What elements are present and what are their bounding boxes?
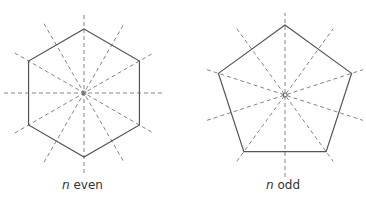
label-n-odd: n odd xyxy=(266,178,300,192)
hexagon-figure xyxy=(4,13,164,173)
label-text: even xyxy=(73,178,102,192)
label-var: n xyxy=(62,178,70,192)
label-text: odd xyxy=(277,178,300,192)
symmetry-diagram xyxy=(0,0,366,206)
label-var: n xyxy=(266,178,274,192)
label-n-even: n even xyxy=(62,178,103,192)
pentagon-figure xyxy=(207,13,363,177)
